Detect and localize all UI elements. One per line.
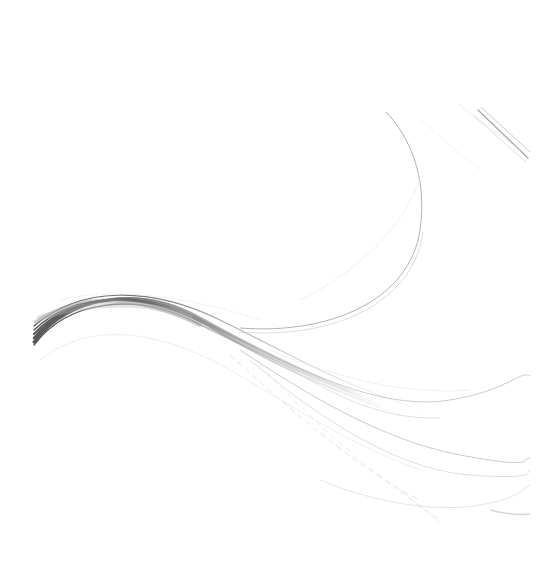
lower-fan-lines <box>230 345 530 522</box>
main-swoosh-band <box>34 295 420 415</box>
faint-halo <box>40 294 420 470</box>
abstract-wave-artwork <box>0 0 547 586</box>
top-right-strokes <box>420 104 530 170</box>
upper-arc <box>238 112 423 333</box>
wave-graphic <box>0 0 547 586</box>
